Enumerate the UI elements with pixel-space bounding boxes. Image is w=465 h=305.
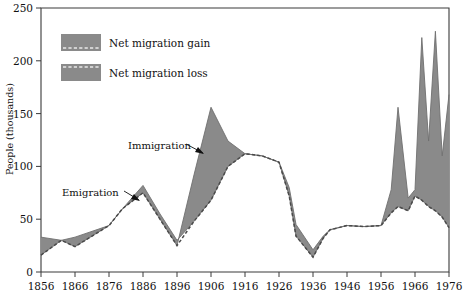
x-tick-label: 1946: [334, 280, 361, 292]
x-tick-label: 1896: [164, 280, 191, 292]
x-tick-label: 1916: [232, 280, 259, 292]
legend-entry-gain: Net migration gain: [61, 34, 211, 51]
annotation-emigration: Emigration: [62, 187, 140, 201]
x-tick-label: 1866: [62, 280, 89, 292]
annotation-label-immigration: Immigration: [128, 140, 191, 151]
y-axis-title: People (thousands): [4, 83, 15, 175]
x-tick-label: 1976: [436, 280, 463, 292]
x-tick-label: 1926: [266, 280, 293, 292]
x-tick-label: 1856: [28, 280, 55, 292]
migration-chart: 050100150200250 185618661876188618961906…: [0, 0, 465, 305]
migration-band-area: [41, 31, 449, 257]
chart-canvas: 050100150200250 185618661876188618961906…: [0, 0, 465, 305]
y-tick-label: 50: [20, 213, 33, 225]
legend-entry-loss: Net migration loss: [61, 64, 208, 81]
y-tick-label: 200: [13, 55, 33, 67]
annotation-immigration: Immigration: [128, 140, 204, 154]
y-tick-label: 0: [26, 266, 33, 278]
annotation-label-emigration: Emigration: [62, 187, 119, 198]
axis-frame-path: [41, 8, 449, 272]
y-axis-ticks: 050100150200250: [13, 2, 41, 278]
y-tick-label: 150: [13, 108, 33, 120]
x-tick-label: 1956: [368, 280, 395, 292]
migration-band-group: [41, 31, 449, 257]
chart-legend: Net migration gain Net migration loss: [61, 34, 211, 81]
migration-band-upper-edge: [41, 31, 449, 257]
x-axis-ticks: 1856186618761886189619061916192619361946…: [28, 272, 463, 292]
x-tick-label: 1966: [402, 280, 429, 292]
legend-label-loss: Net migration loss: [109, 67, 208, 79]
legend-label-gain: Net migration gain: [109, 37, 211, 49]
plot-frame: [41, 8, 449, 272]
x-tick-label: 1876: [96, 280, 123, 292]
x-tick-label: 1906: [198, 280, 225, 292]
y-tick-label: 100: [13, 160, 33, 172]
x-tick-label: 1886: [130, 280, 157, 292]
y-tick-label: 250: [13, 2, 33, 14]
x-tick-label: 1936: [300, 280, 327, 292]
